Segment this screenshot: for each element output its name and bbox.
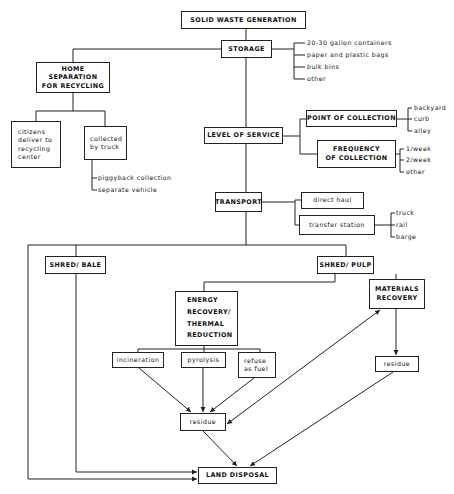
- transfer-station-label: transfer station: [309, 221, 365, 229]
- frequency-of-collection-label: FREQUENCY OF COLLECTION: [325, 145, 387, 162]
- solid-waste-generation-label: SOLID WASTE GENERATION: [190, 16, 296, 25]
- frequency-option-1-week: 1/week: [406, 146, 431, 152]
- energy-recovery-label: ENERGY RECOVERY/ THERMAL REDUCTION: [187, 295, 233, 341]
- collected-by-truck-box: collected by truck: [84, 126, 127, 160]
- waste-management-flowchart: SOLID WASTE GENERATION STORAGE 20-30 gal…: [0, 0, 454, 494]
- pyrolysis-box: pyrolysis: [181, 352, 226, 368]
- transfer-station-box: transfer station: [299, 215, 375, 235]
- citizens-deliver-label: citizens deliver to recycling center: [18, 128, 52, 161]
- transfer-option-barge: barge: [396, 234, 416, 240]
- residue-center-box: residue: [180, 413, 226, 431]
- frequency-option-2-week: 2/week: [406, 157, 431, 163]
- point-option-backyard: backyard: [414, 105, 446, 111]
- transfer-option-rail: rail: [396, 222, 408, 228]
- frequency-of-collection-box: FREQUENCY OF COLLECTION: [317, 140, 396, 168]
- truck-option-piggyback: piggyback collection: [98, 175, 172, 181]
- home-separation-label: HOME SEPARATION FOR RECYCLING: [37, 65, 109, 91]
- point-option-alley: alley: [414, 128, 431, 134]
- incineration-label: incineration: [117, 356, 160, 364]
- level-of-service-box: LEVEL OF SERVICE: [204, 127, 283, 144]
- land-disposal-box: LAND DISPOSAL: [198, 467, 277, 484]
- energy-recovery-box: ENERGY RECOVERY/ THERMAL REDUCTION: [175, 291, 238, 346]
- residue-right-box: residue: [375, 356, 419, 372]
- point-option-curb: curb: [414, 116, 430, 122]
- frequency-option-other: other: [406, 169, 425, 175]
- land-disposal-label: LAND DISPOSAL: [206, 471, 269, 480]
- residue-right-label: residue: [384, 360, 410, 368]
- storage-option-bags: paper and plastic bags: [307, 52, 389, 58]
- collected-by-truck-label: collected by truck: [90, 135, 123, 152]
- storage-option-containers: 20-30 gallon containers: [307, 40, 392, 46]
- refuse-as-fuel-box: refuse as fuel: [238, 352, 276, 378]
- transfer-option-truck: truck: [396, 210, 414, 216]
- shred-pulp-box: SHRED/ PULP: [317, 256, 374, 274]
- home-separation-box: HOME SEPARATION FOR RECYCLING: [36, 62, 110, 93]
- direct-haul-label: direct haul: [313, 196, 352, 204]
- truck-option-separate-vehicle: separate vehicle: [98, 187, 157, 193]
- storage-option-bulk-bins: bulk bins: [307, 64, 339, 70]
- shred-bale-box: SHRED/ BALE: [45, 256, 106, 274]
- solid-waste-generation-box: SOLID WASTE GENERATION: [181, 11, 306, 29]
- storage-label: STORAGE: [228, 45, 265, 54]
- materials-recovery-label: MATERIALS RECOVERY: [375, 285, 419, 302]
- storage-box: STORAGE: [221, 40, 272, 58]
- level-of-service-label: LEVEL OF SERVICE: [207, 131, 280, 140]
- point-of-collection-label: POINT OF COLLECTION: [307, 114, 396, 123]
- storage-option-other: other: [307, 76, 326, 82]
- transport-box: TRANSPORT: [215, 192, 262, 212]
- shred-pulp-label: SHRED/ PULP: [319, 261, 371, 270]
- transport-label: TRANSPORT: [215, 198, 262, 207]
- pyrolysis-label: pyrolysis: [188, 356, 220, 364]
- materials-recovery-box: MATERIALS RECOVERY: [369, 279, 425, 309]
- direct-haul-box: direct haul: [301, 192, 364, 209]
- point-of-collection-box: POINT OF COLLECTION: [306, 110, 397, 127]
- incineration-box: incineration: [112, 352, 164, 368]
- citizens-deliver-box: citizens deliver to recycling center: [11, 121, 61, 168]
- shred-bale-label: SHRED/ BALE: [50, 261, 102, 270]
- refuse-as-fuel-label: refuse as fuel: [244, 357, 268, 374]
- residue-center-label: residue: [190, 418, 216, 426]
